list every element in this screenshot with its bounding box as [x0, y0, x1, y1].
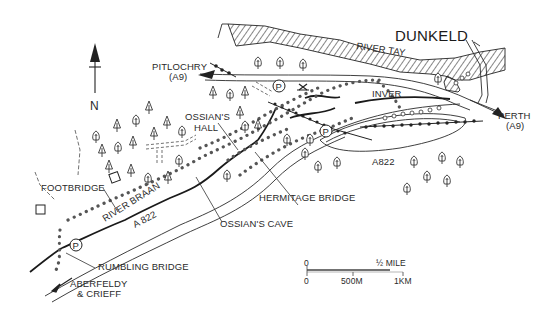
scale-km-end: 1KM — [394, 276, 412, 286]
arrow-to-aberfeldy-icon — [52, 278, 72, 292]
road-label-a822-east: A822 — [372, 156, 395, 167]
north-label: N — [90, 99, 99, 113]
tree-icon — [315, 161, 322, 173]
tree-icon — [151, 127, 158, 140]
tree-icon — [424, 171, 431, 183]
tree-icon — [106, 160, 113, 173]
tree-icon — [307, 134, 314, 146]
tree-icon — [146, 101, 153, 114]
place-label-ossians-hall-2: HALL — [194, 122, 218, 133]
parking-label: P — [276, 81, 282, 92]
tree-icon — [457, 156, 464, 168]
parking-icon: P — [70, 239, 82, 251]
tree-icon — [227, 89, 234, 101]
destination-perth-2: (A9) — [506, 120, 524, 131]
tree-icon — [93, 131, 100, 143]
place-label-footbridge: FOOTBRIDGE — [41, 182, 105, 193]
tree-icon — [300, 59, 307, 71]
tree-icon — [411, 156, 418, 168]
place-label-ossians-hall-1: OSSIAN'S — [185, 111, 230, 122]
north-arrow-icon: N — [89, 43, 101, 113]
scale-km-mid: 500M — [341, 276, 363, 286]
tree-icon — [242, 86, 249, 99]
place-label-ossians-cave: OSSIAN'S CAVE — [220, 218, 293, 229]
tree-icon — [242, 121, 249, 133]
destination-pitlochry-2: (A9) — [169, 71, 187, 82]
tree-icon — [255, 119, 262, 132]
tree-icon — [164, 116, 171, 129]
tree-icon — [179, 126, 186, 138]
scale-miles-end: ½ MILE — [376, 258, 406, 268]
tree-icon — [444, 175, 451, 187]
destination-aberfeldy-2: & CRIEFF — [77, 288, 121, 299]
viewpoint-cross-icon — [297, 84, 309, 90]
tree-icon — [237, 106, 244, 119]
tree-icon — [404, 183, 411, 195]
tree-icon — [115, 142, 122, 154]
tree-icon — [176, 155, 183, 167]
tree-icon — [114, 119, 121, 132]
tree-icon — [435, 73, 442, 85]
tree-icon — [210, 86, 217, 99]
scale-bar: 0 ½ MILE 0 500M 1KM — [304, 258, 412, 286]
tree-icon — [99, 144, 106, 157]
place-label-inver: INVER — [372, 88, 402, 99]
parking-icon: P — [320, 125, 332, 137]
place-label-rumbling-bridge: RUMBLING BRIDGE — [98, 261, 189, 272]
tree-icon — [255, 57, 262, 69]
road-label-a822-west: A 822 — [131, 208, 158, 229]
parking-label: P — [73, 240, 79, 251]
place-label-hermitage-bridge: HERMITAGE BRIDGE — [259, 192, 355, 203]
scale-km-start: 0 — [304, 276, 309, 286]
tree-icon — [439, 152, 446, 164]
tree-icon — [130, 136, 137, 149]
tree-icon — [133, 115, 140, 127]
tree-icon — [224, 170, 231, 182]
walk-map: RIVER TAY DUNKELD N — [0, 0, 559, 313]
woodland-trees — [93, 57, 464, 195]
tree-icon — [334, 157, 341, 169]
tree-icon — [128, 164, 135, 177]
scale-miles-start: 0 — [304, 258, 309, 268]
parking-label: P — [323, 126, 329, 137]
parking-icon: P — [273, 80, 285, 92]
town-label-dunkeld: DUNKELD — [395, 27, 468, 44]
tree-icon — [277, 57, 284, 69]
